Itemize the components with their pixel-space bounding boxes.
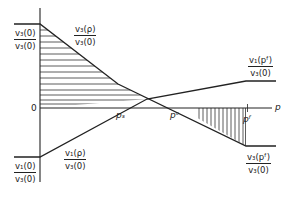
denominator: v₃(0): [64, 161, 86, 171]
denominator: v₃(0): [249, 68, 271, 78]
v1-pf-fraction-label: v₁(pᶠ) v₃(0): [248, 55, 273, 78]
ps-label: pₛ: [116, 110, 125, 120]
numerator: v₁(0): [14, 161, 36, 171]
ps-label-text: pₛ: [116, 110, 125, 120]
v3-pf-fraction-label: v₃(pᶠ) v₃(0): [246, 152, 271, 175]
horizontal-hatching: [40, 30, 200, 104]
fraction-bar: [248, 66, 273, 67]
p-axis-label: p: [275, 102, 281, 112]
fraction-bar: [14, 39, 36, 40]
pf-label-text: pᶠ: [243, 114, 251, 124]
v3-p-fraction-label: v₃(ρ) v₃(0): [74, 24, 96, 47]
fraction-bar: [14, 172, 36, 173]
vertical-hatching: [199, 108, 246, 150]
numerator: v₃(ρ): [74, 24, 96, 34]
v3-0-fraction-label: v₃(0) v₃(0): [14, 28, 36, 51]
v1-p-fraction-label: v₁(ρ) v₃(0): [64, 148, 86, 171]
denominator: v₃(0): [14, 41, 36, 51]
numerator: v₁(ρ): [64, 148, 86, 158]
v1-0-fraction-label: v₁(0) v₃(0): [14, 161, 36, 184]
pf-label: pᶠ: [243, 114, 251, 124]
pc-label: pᶜ: [170, 110, 179, 120]
pc-label-text: pᶜ: [170, 110, 179, 120]
denominator: v₃(0): [14, 174, 36, 184]
origin-label: 0: [31, 103, 37, 113]
numerator: v₃(pᶠ): [246, 152, 271, 162]
numerator: v₁(pᶠ): [248, 55, 273, 65]
fraction-bar: [246, 163, 271, 164]
numerator: v₃(0): [14, 28, 36, 38]
denominator: v₃(0): [247, 165, 269, 175]
denominator: v₃(0): [74, 37, 96, 47]
v1-curve: [14, 81, 276, 157]
fraction-bar: [64, 159, 86, 160]
fraction-bar: [74, 35, 96, 36]
